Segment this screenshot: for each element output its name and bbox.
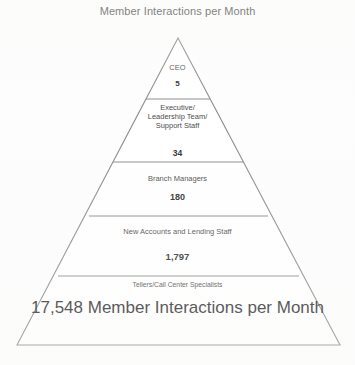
tier-5-label: Tellers/Call Center Specialists bbox=[0, 281, 355, 289]
tier-4-value: 1,797 bbox=[0, 251, 355, 262]
tier-2-label-line-3: Support Staff bbox=[0, 122, 355, 131]
tier-2-value: 34 bbox=[0, 148, 355, 158]
pyramid-diagram-page: Member Interactions per Month CEO 5 Exec… bbox=[0, 0, 355, 365]
tier-5-value: 17,548 Member Interactions per Month bbox=[0, 296, 355, 321]
tier-4-label: New Accounts and Lending Staff bbox=[0, 228, 355, 237]
tier-2-label: Executive/ Leadership Team/ Support Staf… bbox=[0, 104, 355, 131]
tier-1-label: CEO bbox=[0, 64, 355, 73]
tier-1-value: 5 bbox=[0, 79, 355, 88]
tier-3-value: 180 bbox=[0, 192, 355, 202]
tier-3-label: Branch Managers bbox=[0, 175, 355, 184]
